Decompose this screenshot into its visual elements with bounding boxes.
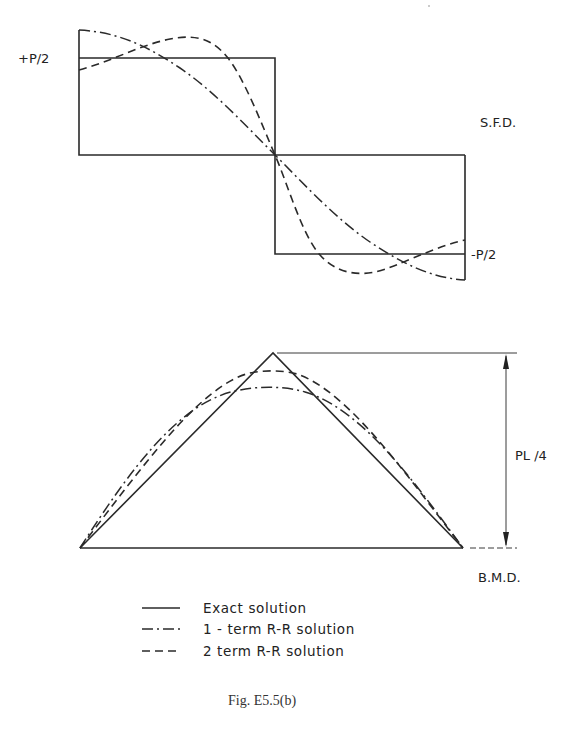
sfd-title: S.F.D.: [480, 115, 516, 130]
figure: +P/2 -P/2 S.F.D. PL /4 B.M.D. Exact solu…: [0, 0, 579, 736]
bmd-dimension-label: PL /4: [515, 448, 547, 463]
bmd-two-term-curve: [80, 371, 463, 548]
legend: Exact solution 1 - term R-R solution 2 t…: [142, 600, 355, 659]
speck: [428, 5, 430, 7]
figure-caption: Fig. E5.5(b): [228, 693, 296, 709]
bmd-title: B.M.D.: [478, 570, 521, 585]
legend-label-exact: Exact solution: [203, 600, 307, 616]
arrow-down-icon: [503, 532, 509, 547]
arrow-up-icon: [503, 354, 509, 369]
sfd-minus-label: -P/2: [471, 247, 496, 262]
legend-label-one-term: 1 - term R-R solution: [203, 621, 355, 637]
legend-label-two-term: 2 term R-R solution: [203, 643, 344, 659]
sfd-exact-curve: [79, 30, 465, 280]
bmd-one-term-curve: [80, 387, 463, 548]
bending-moment-diagram: PL /4 B.M.D.: [80, 353, 547, 585]
bmd-exact-curve: [80, 353, 463, 548]
shear-force-diagram: +P/2 -P/2 S.F.D.: [18, 30, 516, 280]
sfd-plus-label: +P/2: [18, 51, 49, 66]
